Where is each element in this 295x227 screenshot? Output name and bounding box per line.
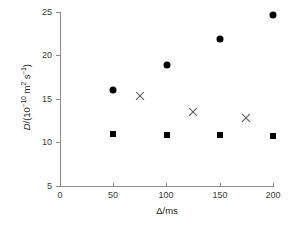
scatter-chart-figure: 25 20 15 10 5 0 50 100 150 200 D/(10−10 … (0, 0, 295, 227)
y-ticklabel-5: 5 (26, 182, 52, 191)
data-point-filled-circle (270, 12, 277, 19)
x-tick-50 (113, 183, 114, 187)
y-tick-10 (56, 142, 60, 143)
y-axis-title: D/(10−10 m2 s−1) (22, 22, 32, 172)
data-point-cross (134, 90, 145, 101)
y-axis-rest-1: /(10 (21, 107, 32, 123)
x-ticklabel-200: 200 (258, 191, 288, 200)
x-axis-line (60, 186, 274, 187)
data-point-filled-circle (163, 62, 170, 69)
y-axis-rest-3: s (21, 75, 32, 82)
y-axis-sup-m1: −1 (20, 67, 27, 74)
y-axis-exponent: −10 (20, 96, 27, 107)
y-tick-20 (56, 55, 60, 56)
data-point-filled-circle (110, 87, 117, 94)
x-tick-150 (220, 183, 221, 187)
y-axis-sup-2: 2 (20, 82, 27, 86)
data-point-filled-square (217, 132, 223, 138)
y-tick-25 (56, 12, 60, 13)
data-point-filled-square (164, 132, 170, 138)
x-tick-0 (60, 183, 61, 187)
y-axis-rest-2: m (21, 86, 32, 97)
data-point-cross (188, 107, 199, 118)
y-axis-symbol: D (21, 123, 32, 130)
x-ticklabel-50: 50 (98, 191, 128, 200)
data-point-filled-circle (216, 35, 223, 42)
y-tick-15 (56, 99, 60, 100)
x-tick-200 (273, 183, 274, 187)
y-axis-rest-4: ) (21, 64, 32, 67)
x-ticklabel-150: 150 (205, 191, 235, 200)
x-tick-100 (166, 183, 167, 187)
data-point-filled-square (270, 133, 276, 139)
x-axis-title: Δ/ms (60, 205, 274, 216)
y-axis-line (60, 12, 61, 187)
y-ticklabel-25: 25 (26, 8, 52, 17)
x-ticklabel-0: 0 (45, 191, 75, 200)
x-ticklabel-100: 100 (151, 191, 181, 200)
data-point-cross (241, 113, 252, 124)
data-point-filled-square (110, 131, 116, 137)
